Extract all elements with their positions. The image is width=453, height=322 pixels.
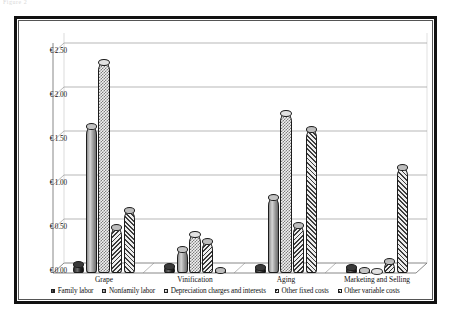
- bar-top-cap: [202, 238, 214, 245]
- bar-top-cap: [111, 224, 123, 231]
- bar-3-5: [306, 129, 318, 273]
- bar-top-cap: [384, 258, 396, 265]
- bar-top-cap: [177, 246, 189, 253]
- bar-top-cap: [293, 222, 305, 229]
- chart-bars-layer: [17, 19, 434, 301]
- bar-top-cap: [86, 123, 98, 130]
- bar-top-cap: [306, 126, 318, 133]
- bar-top-cap: [215, 267, 227, 274]
- bar-3-3: [280, 113, 292, 273]
- legend-item-3[interactable]: Depreciation charges and interests: [164, 287, 266, 295]
- chart-legend: Family laborNonfamily laborDepreciation …: [17, 287, 434, 295]
- legend-label: Family labor: [58, 287, 94, 295]
- legend-item-2[interactable]: Nonfamily labor: [102, 287, 155, 295]
- bar-1-5: [124, 210, 136, 273]
- legend-swatch-icon: [102, 289, 106, 293]
- x-label-vinification: Vinification: [177, 275, 212, 284]
- bar-1-4: [111, 227, 123, 273]
- bar-top-cap: [346, 264, 358, 271]
- bar-2-1: [164, 266, 176, 273]
- legend-label: Depreciation charges and interests: [171, 287, 266, 295]
- legend-label: Other variable costs: [344, 287, 399, 295]
- legend-swatch-icon: [164, 289, 168, 293]
- x-label-grape: Grape: [95, 275, 113, 284]
- legend-item-5[interactable]: Other variable costs: [338, 287, 400, 295]
- bar-2-4: [202, 241, 214, 273]
- bar-4-4: [384, 261, 396, 273]
- bar-top-cap: [98, 59, 110, 66]
- legend-swatch-icon: [275, 289, 279, 293]
- legend-swatch-icon: [51, 289, 55, 293]
- legend-swatch-icon: [338, 289, 342, 293]
- bar-1-1: [73, 264, 85, 273]
- bar-3-2: [268, 197, 280, 273]
- bar-top-cap: [124, 207, 136, 214]
- bar-1-2: [86, 126, 98, 273]
- bar-4-5: [397, 167, 409, 273]
- chart-frame: € 0.00 € 0.50 € 1.00 € 1.50 € 2.00 € 2.5…: [14, 16, 437, 304]
- bar-2-3: [189, 234, 201, 273]
- bar-top-cap: [280, 110, 292, 117]
- bar-top-cap: [73, 261, 85, 268]
- bar-2-5: [215, 270, 227, 273]
- x-label-marketing: Marketing and Selling: [344, 275, 410, 284]
- legend-label: Nonfamily labor: [109, 287, 155, 295]
- bar-group-marketing-and-selling: [17, 19, 434, 301]
- bar-3-4: [293, 225, 305, 273]
- chart-plot-area: € 0.00 € 0.50 € 1.00 € 1.50 € 2.00 € 2.5…: [17, 19, 434, 301]
- legend-item-4[interactable]: Other fixed costs: [275, 287, 329, 295]
- bar-top-cap: [164, 263, 176, 270]
- bar-1-3: [98, 62, 110, 273]
- x-label-aging: Aging: [277, 275, 295, 284]
- bar-4-2: [359, 270, 371, 273]
- cropped-page-artifact-text: Figure 2: [3, 0, 27, 5]
- legend-label: Other fixed costs: [281, 287, 328, 295]
- legend-item-1[interactable]: Family labor: [51, 287, 93, 295]
- bar-top-cap: [255, 264, 267, 271]
- bar-3-1: [255, 267, 267, 273]
- bar-4-1: [346, 267, 358, 273]
- bar-2-2: [177, 249, 189, 273]
- bar-top-cap: [371, 268, 383, 275]
- bar-top-cap: [397, 164, 409, 171]
- bar-top-cap: [268, 194, 280, 201]
- bar-top-cap: [189, 231, 201, 238]
- bar-top-cap: [359, 267, 371, 274]
- bar-4-3: [371, 271, 383, 273]
